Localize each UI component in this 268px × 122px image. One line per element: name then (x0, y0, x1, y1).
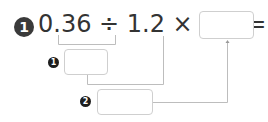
step-1-connector (88, 36, 164, 85)
step-2-connector (153, 42, 228, 103)
bracket-line (59, 35, 116, 45)
connector-lines (0, 0, 268, 122)
arrow-up-icon (226, 40, 230, 43)
